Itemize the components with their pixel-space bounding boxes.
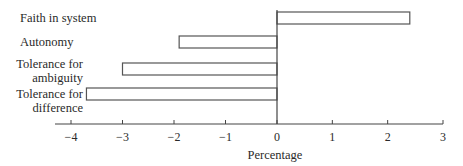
bar xyxy=(277,12,410,24)
x-tick-label: 0 xyxy=(274,130,280,144)
category-label: Tolerance for xyxy=(16,87,84,101)
x-tick-label: 1 xyxy=(329,130,335,144)
bar xyxy=(179,36,277,48)
bar xyxy=(86,88,277,100)
category-labels: Faith in systemAutonomyTolerance forambi… xyxy=(16,11,96,115)
x-tick-label: 3 xyxy=(440,130,446,144)
x-axis: −4−3−2−10123 xyxy=(55,120,446,144)
x-tick-label: −1 xyxy=(219,130,232,144)
category-label: Autonomy xyxy=(20,35,74,49)
bar xyxy=(123,63,278,75)
category-label: ambiguity xyxy=(32,71,83,85)
x-tick-label: −2 xyxy=(168,130,181,144)
x-tick-label: −3 xyxy=(116,130,129,144)
category-label: Tolerance for xyxy=(16,57,84,71)
category-label: Faith in system xyxy=(20,11,97,25)
x-tick-label: 2 xyxy=(385,130,391,144)
category-label: difference xyxy=(33,101,84,115)
bar-chart: −4−3−2−10123 Faith in systemAutonomyTole… xyxy=(0,0,463,166)
x-tick-label: −4 xyxy=(65,130,78,144)
x-axis-label: Percentage xyxy=(248,148,303,162)
bars-group xyxy=(86,12,409,100)
